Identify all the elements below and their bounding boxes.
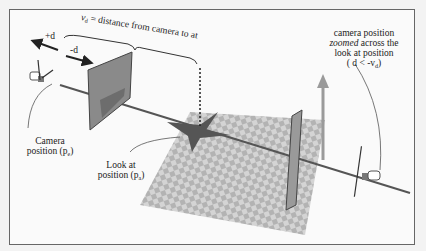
- minus-d-arrow: [66, 56, 88, 62]
- zoomed-camera-label: camera position zoomed across the look a…: [308, 28, 420, 71]
- camera-icon: [30, 60, 53, 82]
- minus-d-label: -d: [70, 45, 78, 55]
- plus-d-label: +d: [45, 31, 55, 41]
- plus-d-arrow: [36, 42, 58, 50]
- zoomed-leader: [355, 64, 381, 170]
- near-image-plane: [88, 52, 132, 130]
- zoomed-camera-icon: [354, 146, 380, 197]
- camera-leader: [28, 84, 52, 128]
- camera-position-label: Camera position (pe): [20, 136, 80, 159]
- look-at-position-label: Look at position (pa): [90, 160, 152, 183]
